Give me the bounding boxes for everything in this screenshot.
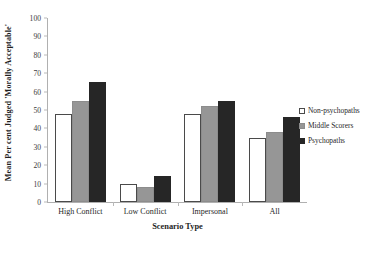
y-tick-label: 80 [14, 50, 44, 59]
y-tick-label: 0 [14, 198, 44, 207]
bar [184, 114, 201, 202]
y-tick-mark [44, 202, 47, 203]
y-tick-mark [44, 146, 47, 147]
legend-label: Psychopaths [308, 136, 345, 145]
bar-chart: Mean Per cent Judged 'Morally Acceptable… [0, 0, 373, 253]
y-tick-label: 60 [14, 87, 44, 96]
bar [201, 106, 218, 202]
bar [89, 82, 106, 202]
y-tick-label: 70 [14, 69, 44, 78]
x-group-separator [113, 202, 114, 206]
legend-item[interactable]: Non-psychopaths [299, 106, 373, 115]
x-group-separator [178, 202, 179, 206]
legend-label: Non-psychopaths [308, 106, 360, 115]
legend-label: Middle Scorers [308, 121, 353, 130]
y-tick-label: 100 [14, 14, 44, 23]
y-tick-mark [44, 128, 47, 129]
x-group-separator [242, 202, 243, 206]
legend-item[interactable]: Psychopaths [299, 136, 373, 145]
bar [249, 138, 266, 202]
bar-group [113, 18, 178, 202]
y-tick-mark [44, 183, 47, 184]
bar-group [48, 18, 113, 202]
y-tick-label: 40 [14, 124, 44, 133]
legend-swatch-icon [299, 123, 305, 129]
y-tick-mark [44, 91, 47, 92]
x-tick-label: Impersonal [192, 207, 228, 216]
x-tick-label: Low Conflict [124, 207, 167, 216]
y-tick-mark [44, 36, 47, 37]
y-tick-mark [44, 73, 47, 74]
legend-swatch-icon [299, 108, 305, 114]
bar-group [178, 18, 243, 202]
bar [72, 101, 89, 202]
y-tick-mark [44, 18, 47, 19]
legend-swatch-icon [299, 138, 305, 144]
y-tick-mark [44, 165, 47, 166]
bar [154, 176, 171, 202]
y-tick-mark [44, 110, 47, 111]
y-tick-label: 10 [14, 179, 44, 188]
x-tick-label: High Conflict [58, 207, 102, 216]
y-tick-label: 30 [14, 142, 44, 151]
x-tick-label: All [270, 207, 280, 216]
y-tick-label: 20 [14, 161, 44, 170]
bar [218, 101, 235, 202]
bar [120, 184, 137, 202]
bar [283, 117, 300, 202]
bar-group [242, 18, 307, 202]
y-axis-tick-labels: 0102030405060708090100 [14, 18, 44, 202]
y-tick-mark [44, 54, 47, 55]
bar [266, 132, 283, 202]
y-axis-title-text: Mean Per cent Judged 'Morally Acceptable… [5, 24, 14, 181]
plot-area [48, 18, 307, 202]
legend-item[interactable]: Middle Scorers [299, 121, 373, 130]
bar [137, 187, 154, 202]
bar [55, 114, 72, 202]
chart-legend: Non-psychopathsMiddle ScorersPsychopaths [299, 106, 373, 151]
x-axis-title: Scenario Type [48, 222, 307, 231]
y-tick-label: 90 [14, 32, 44, 41]
y-tick-label: 50 [14, 106, 44, 115]
